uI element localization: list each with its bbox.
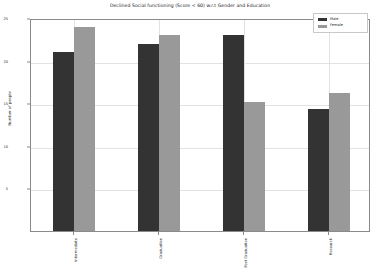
x-tick-mark bbox=[328, 232, 329, 235]
x-tick-label-2: Post Graduation bbox=[244, 238, 248, 268]
legend-label: Female bbox=[330, 24, 343, 28]
y-tick-label: 25 bbox=[0, 17, 8, 21]
bar-female-3 bbox=[329, 93, 350, 231]
plot-area bbox=[30, 19, 370, 232]
x-tick-label-0: Intermediate bbox=[74, 238, 78, 262]
y-tick-label: 10 bbox=[0, 145, 8, 149]
bar-male-2 bbox=[223, 35, 244, 231]
legend-item-female[interactable]: Female bbox=[316, 23, 365, 29]
legend-label: Male bbox=[330, 18, 339, 22]
x-tick-mark bbox=[158, 232, 159, 235]
y-tick-label: 20 bbox=[0, 60, 8, 64]
bar-female-0 bbox=[74, 27, 95, 231]
bar-male-0 bbox=[53, 52, 74, 231]
legend-swatch-icon bbox=[318, 18, 327, 21]
y-tick-label: 15 bbox=[0, 102, 8, 106]
x-tick-mark bbox=[73, 232, 74, 235]
bar-male-1 bbox=[138, 44, 159, 231]
x-tick-mark bbox=[243, 232, 244, 235]
bar-male-3 bbox=[308, 109, 329, 231]
x-tick-label-3: Research bbox=[329, 238, 333, 255]
chart-figure: Declined Social functioning (Score < 60)… bbox=[0, 0, 380, 270]
chart-title: Declined Social functioning (Score < 60)… bbox=[0, 3, 380, 8]
bar-female-2 bbox=[244, 102, 265, 232]
y-tick-label: 5 bbox=[0, 187, 8, 191]
legend-item-male[interactable]: Male bbox=[316, 17, 365, 23]
x-tick-label-1: Graduation bbox=[159, 238, 163, 259]
legend-swatch-icon bbox=[318, 25, 327, 28]
chart-legend[interactable]: MaleFemale bbox=[313, 13, 368, 33]
y-axis-label: Number of people bbox=[7, 64, 12, 154]
bar-female-1 bbox=[159, 35, 180, 231]
